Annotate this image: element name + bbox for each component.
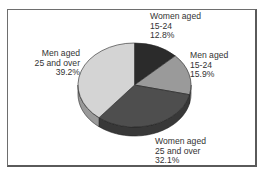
label-value: 15.9% xyxy=(190,70,228,80)
label-value: 39.2% xyxy=(35,68,80,78)
label-women-25-over: Women aged 25 and over 32.1% xyxy=(155,137,206,166)
label-value: 32.1% xyxy=(155,156,206,166)
label-women-15-24: Women aged 15-24 12.8% xyxy=(150,12,201,41)
label-men-25-over: Men aged 25 and over 39.2% xyxy=(35,49,80,78)
label-men-15-24: Men aged 15-24 15.9% xyxy=(190,51,228,80)
label-value: 12.8% xyxy=(150,31,201,41)
pie-chart xyxy=(0,0,263,172)
